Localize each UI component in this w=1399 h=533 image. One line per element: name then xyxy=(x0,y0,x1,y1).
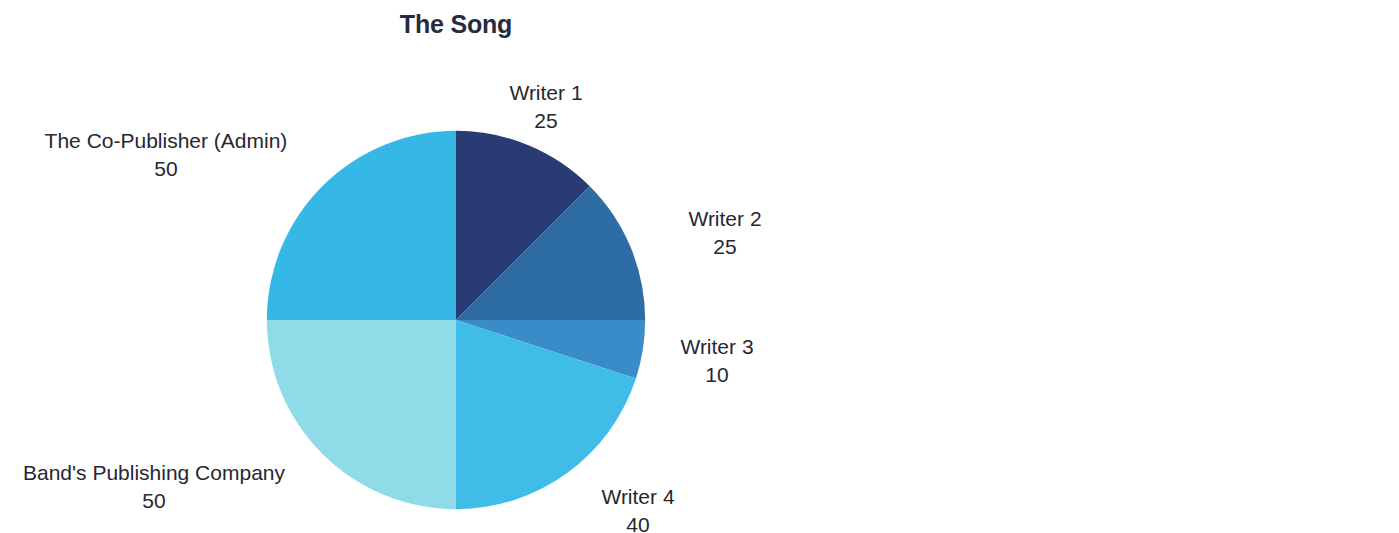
chart-title-song: The Song xyxy=(236,10,676,39)
pie-label-bands-publishing-company: Band's Publishing Company 50 xyxy=(4,459,304,514)
pie-label-writer1: Writer 1 25 xyxy=(452,79,640,134)
pie-label-writer3-name: Writer 3 xyxy=(680,335,753,358)
pie-label-writer3-value: 10 xyxy=(637,361,797,389)
pie-label-bands-publishing-company-name: Band's Publishing Company xyxy=(23,461,285,484)
pie-label-writer4-name: Writer 4 xyxy=(601,485,674,508)
pie-label-writer4: Writer 4 40 xyxy=(553,483,723,533)
pie-chart-song xyxy=(261,125,651,515)
pie-label-co-publisher-admin-value: 50 xyxy=(16,155,316,183)
pie-label-writer2: Writer 2 25 xyxy=(645,205,805,260)
pie-label-bands-publishing-company-value: 50 xyxy=(4,487,304,515)
pie-label-co-publisher-admin-name: The Co-Publisher (Admin) xyxy=(45,129,288,152)
pie-label-writer4-value: 40 xyxy=(553,511,723,533)
pie-label-co-publisher-admin: The Co-Publisher (Admin) 50 xyxy=(16,127,316,182)
pie-label-writer2-value: 25 xyxy=(645,233,805,261)
pie-label-writer3: Writer 3 10 xyxy=(637,333,797,388)
pie-label-writer1-name: Writer 1 xyxy=(509,81,582,104)
chart-panel-song: The Song The Co-Publisher (Admin) 50 Ban… xyxy=(0,0,860,533)
chart-panel-master: The Master Producer 10% Label 50% Band 4… xyxy=(860,0,1399,533)
pie-label-writer2-name: Writer 2 xyxy=(688,207,761,230)
pie-label-writer1-value: 25 xyxy=(452,107,640,135)
